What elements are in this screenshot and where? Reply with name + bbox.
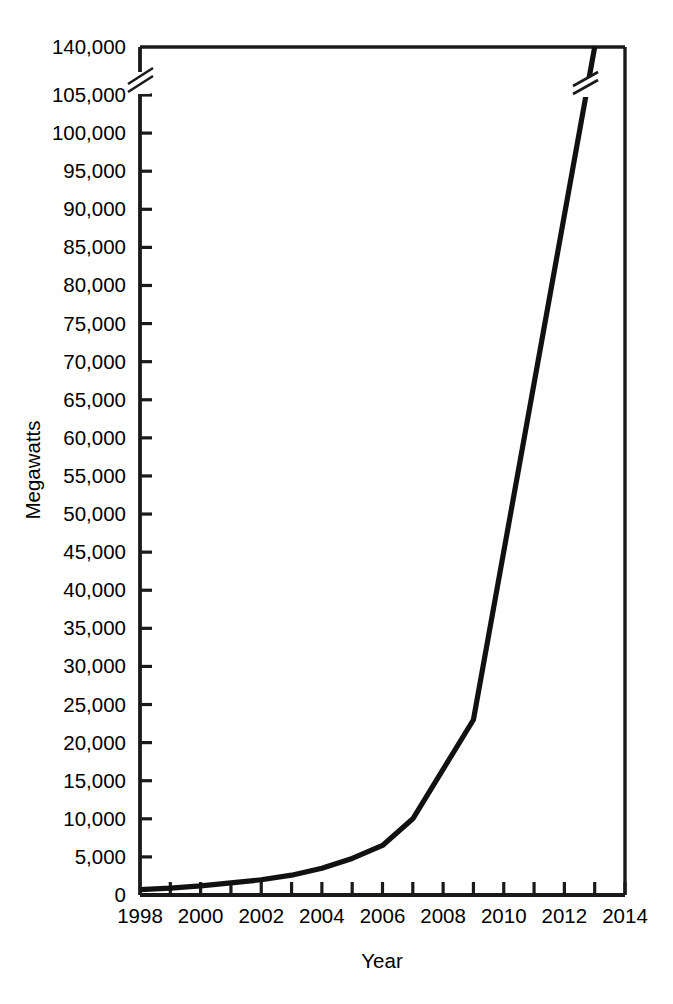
- y-axis-tick-label: 95,000: [63, 159, 126, 182]
- y-axis-tick-label: 70,000: [63, 350, 126, 373]
- y-axis-tick-label: 20,000: [63, 731, 126, 754]
- y-axis-tick-label: 5,000: [75, 845, 126, 868]
- y-axis-tick-label: 35,000: [63, 616, 126, 639]
- x-axis-tick-label: 2014: [602, 904, 648, 927]
- y-axis-title: Megawatts: [21, 420, 44, 519]
- y-axis-tick-label: 85,000: [63, 235, 126, 258]
- x-axis-tick-label: 2008: [420, 904, 466, 927]
- x-axis-title: Year: [361, 949, 403, 972]
- x-axis-tick-label: 2000: [178, 904, 224, 927]
- y-axis-tick-label: 55,000: [63, 464, 126, 487]
- y-axis-tick-label: 45,000: [63, 540, 126, 563]
- x-axis-tick-label: 2010: [481, 904, 527, 927]
- y-axis-tick-label: 100,000: [52, 121, 126, 144]
- y-axis-tick-label: 50,000: [63, 502, 126, 525]
- y-axis-tick-label: 25,000: [63, 693, 126, 716]
- y-axis-tick-label: 65,000: [63, 388, 126, 411]
- chart-container: 05,00010,00015,00020,00025,00030,00035,0…: [0, 0, 673, 1004]
- y-axis-tick-label: 140,000: [52, 35, 126, 58]
- y-axis-tick-label: 15,000: [63, 769, 126, 792]
- y-axis-tick-labels: 05,00010,00015,00020,00025,00030,00035,0…: [52, 35, 126, 906]
- y-axis-tick-label: 30,000: [63, 654, 126, 677]
- y-axis-tick-label: 90,000: [63, 197, 126, 220]
- x-axis-tick-label: 1998: [117, 904, 163, 927]
- y-axis-tick-label: 80,000: [63, 273, 126, 296]
- y-axis-tick-label: 40,000: [63, 578, 126, 601]
- line-chart: 05,00010,00015,00020,00025,00030,00035,0…: [0, 0, 673, 1004]
- y-axis-tick-label: 105,000: [52, 83, 126, 106]
- x-axis-tick-label: 2012: [542, 904, 588, 927]
- y-axis-tick-label: 60,000: [63, 426, 126, 449]
- x-axis-tick-label: 2002: [238, 904, 284, 927]
- x-axis-tick-label: 2006: [360, 904, 406, 927]
- x-axis-tick-label: 2004: [299, 904, 345, 927]
- y-axis-tick-label: 10,000: [63, 807, 126, 830]
- y-axis-tick-label: 75,000: [63, 312, 126, 335]
- y-axis-tick-label: 0: [115, 883, 126, 906]
- x-axis-tick-labels: 199820002002200420062008201020122014: [117, 904, 648, 927]
